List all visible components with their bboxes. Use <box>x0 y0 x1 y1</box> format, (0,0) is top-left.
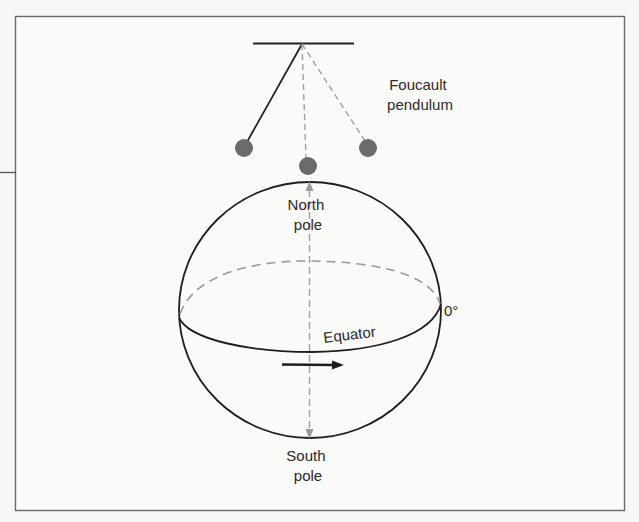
longitude-zero-label: 0° <box>444 302 458 319</box>
figure-frame <box>16 17 625 511</box>
rotation-arrow-shaft <box>282 365 334 366</box>
pendulum-bob-center <box>299 157 317 175</box>
foucault-pendulum-diagram: Foucault pendulum North pole 0° Equator … <box>0 0 639 522</box>
pendulum-bob-left <box>235 139 253 157</box>
pendulum-bob-right <box>359 139 377 157</box>
